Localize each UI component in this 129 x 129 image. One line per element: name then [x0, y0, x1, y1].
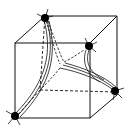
- atom-front-bottom-left: [6, 111, 20, 125]
- atom-dot: [111, 87, 119, 95]
- atom-dot: [11, 112, 19, 120]
- atom-front-top-right: [85, 38, 97, 52]
- cube-front-face: [15, 43, 90, 118]
- cube-tetrahedral-diagram: [0, 0, 129, 129]
- atom-dot: [85, 42, 93, 50]
- tube-network: [16, 20, 116, 117]
- atom-dot: [41, 14, 49, 22]
- cube-depth-edges: [15, 16, 117, 118]
